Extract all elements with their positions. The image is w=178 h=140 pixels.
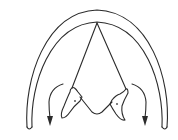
right-arrow-shaft <box>132 84 146 118</box>
right-process-outline <box>110 89 128 120</box>
left-rotation-arrow <box>47 84 63 126</box>
left-process <box>61 88 82 119</box>
right-rotation-arrow <box>132 84 148 126</box>
outer-arch <box>27 10 168 127</box>
diagram-canvas <box>0 0 178 140</box>
triangle-bottom-notch <box>80 97 112 114</box>
left-arch-end <box>27 127 32 129</box>
left-process-dot <box>74 100 76 102</box>
triangle-right-edge <box>97 23 126 89</box>
left-arrowhead-icon <box>47 116 53 126</box>
left-process-outline <box>61 88 82 119</box>
diagram-svg <box>0 0 178 140</box>
right-process <box>110 89 128 120</box>
left-arrow-shaft <box>49 84 63 118</box>
right-process-dot <box>116 103 118 105</box>
right-arrowhead-icon <box>142 116 148 126</box>
inner-arch <box>32 22 162 127</box>
arch-band <box>27 10 168 129</box>
right-arch-end <box>162 127 167 129</box>
triangle-left-edge <box>72 23 97 88</box>
